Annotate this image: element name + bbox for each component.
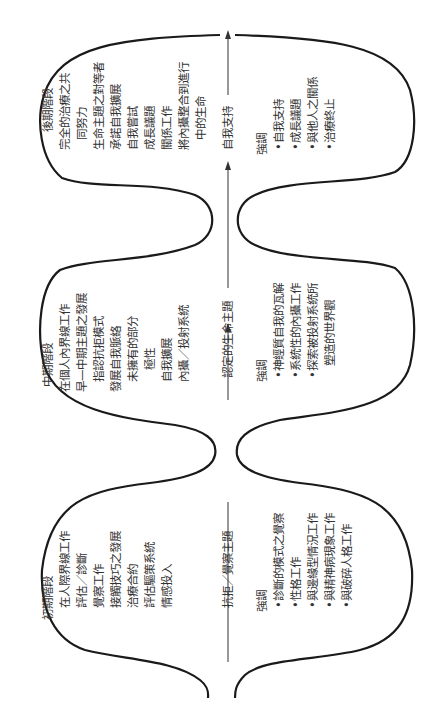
svg-text:•自我支持: •自我支持	[272, 98, 286, 150]
svg-text:•與他人之關係: •與他人之關係	[306, 77, 320, 150]
stage-early: 初期階段 在人際界線工作 評估／診斷 覺察工作 接觸技巧之發展 治療合約 評估驅…	[41, 512, 354, 620]
stage-theme: 抗拒／覺察主題	[221, 530, 235, 608]
stage-item: 評估／診斷	[75, 553, 89, 608]
arrow-up-icon	[225, 30, 231, 39]
svg-text:•診斷的模式之覺察: •診斷的模式之覺察	[272, 512, 286, 608]
stage-item: 自我擴展	[160, 337, 174, 382]
svg-text:•治療終止: •治療終止	[323, 99, 337, 150]
stage-item: 承諾自我擴展	[109, 83, 123, 150]
stage-title: 初期階段	[41, 575, 55, 620]
stage-item: 關係工作	[160, 105, 174, 150]
stage-middle: 中期階段 在個人內界線工作 早—中期主題之發展 指認抗拒模式 發展自我脈絡 未擁…	[41, 282, 337, 392]
stage-item: 完全的治療之共	[58, 73, 72, 150]
stage-item: 生命主題之對等者	[92, 62, 106, 150]
stage-item: 極性	[143, 348, 157, 370]
stage-item: 發展自我脈絡	[109, 325, 123, 392]
stage-item: 內攝／投射系統	[177, 304, 191, 382]
stage-theme: 認定的生命主題	[221, 300, 235, 378]
stage-item: 早—中期主題之發展	[75, 292, 89, 393]
emphasis-label: 強調	[255, 360, 269, 382]
arrow-up-icon	[225, 161, 231, 170]
stage-title: 中期階段	[41, 342, 55, 387]
stage-item: 中的生命	[194, 95, 208, 140]
stage-late: 後期階段 完全的治療之共 同努力 生命主題之對等者 承諾自我擴展 自我嘗試 成長…	[41, 62, 337, 155]
stage-item: 接觸技巧之發展	[109, 530, 123, 608]
stage-item: 評估驅策系統	[143, 541, 157, 608]
stage-title: 後期階段	[41, 87, 55, 132]
svg-text:•系統性的內攝工作: •系統性的內攝工作	[289, 282, 303, 378]
svg-text:•神經質自我的瓦解: •神經質自我的瓦解	[272, 282, 286, 378]
svg-text:•與邊緣型情況工作: •與邊緣型情況工作	[306, 512, 320, 608]
emphasis-list: •診斷的模式之覺察 •性格工作 •與邊緣型情況工作 •與精神病現象工作 •與破碎…	[272, 512, 354, 608]
svg-text:•與精神病現象工作: •與精神病現象工作	[323, 512, 337, 608]
stage-item: 指認抗拒模式	[92, 315, 106, 382]
stage-item: 覺察工作	[92, 563, 106, 608]
emphasis-label: 強調	[255, 590, 269, 612]
stage-item: 將內攝整合到進行	[177, 62, 191, 150]
emphasis-list: •神經質自我的瓦解 •系統性的內攝工作 •探索被投射系統所 塑造的世界觀	[272, 282, 337, 378]
stage-item: 在人際界線工作	[58, 530, 72, 608]
svg-text:•探索被投射系統所: •探索被投射系統所	[306, 282, 320, 378]
svg-text:塑造的世界觀: 塑造的世界觀	[323, 299, 337, 366]
emphasis-label: 強調	[255, 133, 269, 155]
svg-text:•與破碎人格工作: •與破碎人格工作	[340, 523, 354, 608]
svg-text:•性格工作: •性格工作	[289, 556, 303, 608]
stage-item: 未擁有的部分	[126, 315, 140, 382]
stage-theme: 自我支持	[221, 105, 235, 150]
stage-item: 同努力	[75, 107, 89, 140]
therapy-stages-diagram: 初期階段 在人際界線工作 評估／診斷 覺察工作 接觸技巧之發展 治療合約 評估驅…	[0, 0, 431, 713]
stage-item: 自我嘗試	[126, 105, 140, 150]
svg-text:•成長議題: •成長議題	[289, 98, 303, 150]
stage-item: 情感投入	[160, 563, 174, 608]
stage-item: 在個人內界線工作	[58, 303, 72, 392]
stage-item: 成長議題	[143, 105, 157, 150]
stage-item: 治療合約	[126, 564, 140, 608]
emphasis-list: •自我支持 •成長議題 •與他人之關係 •治療終止	[272, 77, 337, 150]
